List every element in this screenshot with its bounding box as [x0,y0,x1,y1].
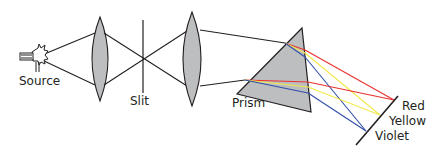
ray-yellow-bottom [308,87,380,115]
label-violet: Violet [375,129,409,143]
label-red: Red [402,99,425,113]
label-yellow: Yellow [388,114,426,128]
light-source-icon [20,44,48,72]
spectroscope-diagram: Source Slit Prism Red Yellow Violet [0,0,438,157]
ray-red-bottom [308,82,394,100]
label-slit: Slit [130,94,149,108]
lens-1 [92,17,108,101]
ray-red-top [305,50,394,100]
label-prism: Prism [232,96,265,110]
label-source: Source [19,74,60,88]
rays-lens1-to-lens2 [104,31,187,86]
lens-2 [183,12,201,106]
dispersed-rays [305,50,394,131]
ray-violet-top [305,57,366,131]
